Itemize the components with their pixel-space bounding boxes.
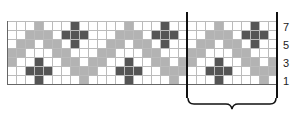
repeat-bracket <box>0 0 295 120</box>
